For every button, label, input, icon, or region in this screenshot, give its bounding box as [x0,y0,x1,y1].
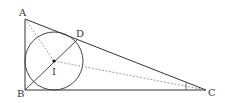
segment-bd [25,40,77,90]
label-c: C [208,87,216,98]
point-i [52,59,55,62]
segment-ic-dashed [54,61,206,90]
label-b: B [17,88,24,99]
label-a: A [18,7,27,18]
label-i: I [52,66,56,77]
segment-ai-dashed [25,19,54,61]
geometry-diagram: A B C D I [0,0,225,103]
segment-ac [25,19,206,90]
label-d: D [76,28,84,39]
